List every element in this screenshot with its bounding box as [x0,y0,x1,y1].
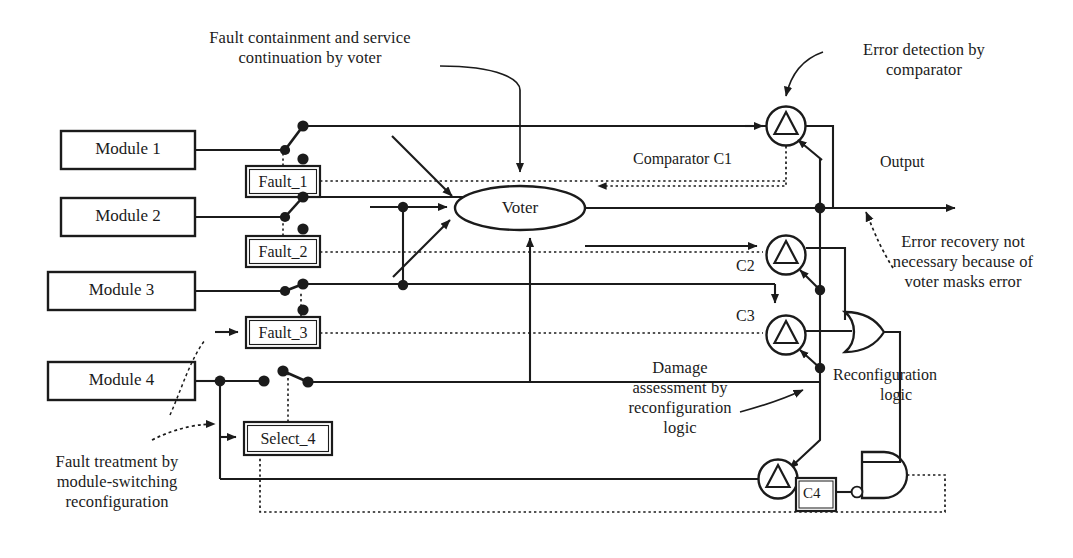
bus-down-to-c4 [790,382,820,468]
c1-input-lower [798,140,822,160]
leader-fault-treatment [152,424,215,440]
module-label-4: Module 4 [48,370,195,391]
comparator-c1-label: Comparator C1 [633,149,732,169]
comparator-c2 [767,236,806,275]
annotation-line: Error recovery not [855,232,1071,252]
fault-label-2: Fault_2 [246,242,320,262]
annotation-line: Error detection by [812,40,1036,60]
reconfiguration-logic-label-2: logic [880,385,912,405]
voter-label: Voter [455,198,585,219]
module-label-2: Module 2 [61,206,195,227]
annotation-line: reconfiguration [600,398,760,418]
gate-output-to-select [260,455,334,512]
annotation-line: Fault treatment by [22,452,212,472]
annotation-fault-treatment: Fault treatment by module-switching reco… [22,452,212,512]
voter-input-module-4 [393,220,450,277]
output-label: Output [880,152,924,172]
annotation-damage-assessment: Damage assessment by reconfiguration log… [600,358,760,439]
c2-out-to-or [806,248,845,320]
annotation-line: voter masks error [855,272,1071,292]
select-label-4: Select_4 [244,429,332,449]
comparator-c1 [767,107,806,146]
annotation-line: logic [600,418,760,438]
and-gate-c4 [852,452,907,498]
annotation-line: reconfiguration [22,492,212,512]
fault-label-1: Fault_1 [246,172,320,192]
comparator-c4-label: C4 [803,484,821,502]
annotation-line: module-switching [22,472,212,492]
inversion-bubble-icon [852,487,863,498]
module-label-3: Module 3 [48,280,195,301]
module-label-1: Module 1 [61,139,195,160]
leader-fault-containment [440,66,520,90]
annotation-line: necessary because of [855,252,1071,272]
comparator-c3-label: C3 [736,306,755,326]
annotation-line: Fault containment and service [150,28,470,48]
comparator-c3 [767,316,806,355]
voter-input-module-1 [392,136,452,196]
annotation-fault-containment: Fault containment and service continuati… [150,28,470,68]
fault-label-3: Fault_3 [246,323,320,343]
reconfiguration-logic-label-1: Reconfiguration [833,365,937,385]
annotation-line: continuation by voter [150,48,470,68]
annotation-error-recovery: Error recovery not necessary because of … [855,232,1071,292]
annotation-error-detection: Error detection by comparator [812,40,1036,80]
comparator-c4 [759,460,798,499]
annotation-line: comparator [812,60,1036,80]
comparator-c2-label: C2 [736,256,755,276]
annotation-line: assessment by [600,378,760,398]
annotation-line: Damage [600,358,760,378]
figure-canvas: Module 1 Module 2 Module 3 Module 4 Faul… [0,0,1073,558]
